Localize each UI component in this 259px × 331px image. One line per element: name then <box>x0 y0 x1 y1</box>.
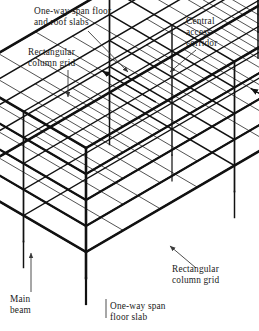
callout-label-rectangular-column-grid-top: Rectangular column grid <box>28 47 108 69</box>
callout-label-central-access-corridor: Central access corridor <box>186 16 248 50</box>
main-beam-transverse <box>0 179 86 252</box>
main-beam-transverse <box>0 75 86 148</box>
outer-beam <box>0 101 86 174</box>
outer-beam <box>0 153 86 226</box>
outer-beam <box>0 179 86 252</box>
callout-label-rectangular-column-grid-right: Rectangular column grid <box>172 264 256 286</box>
outer-beam <box>0 75 86 148</box>
callout-label-one-way-span-floor-slab: One-way span floor slab <box>110 301 194 323</box>
callout-label-one-way-span-floor-and-roof-slabs: One-way span floor and roof slabs <box>34 6 154 28</box>
structural-frame-diagram: One-way span floor and roof slabsRectang… <box>0 0 259 331</box>
outer-beam <box>0 127 86 200</box>
main-beam-transverse <box>0 101 86 174</box>
callout-label-main-beam: Main beam <box>10 294 56 316</box>
main-beam-transverse <box>0 127 86 200</box>
main-beam-transverse <box>0 153 86 226</box>
